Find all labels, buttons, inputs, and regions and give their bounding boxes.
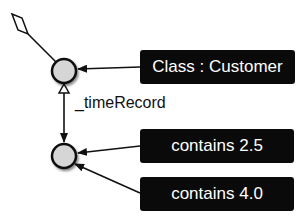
record-node[interactable]: [52, 144, 76, 168]
contains-2-5-box[interactable]: contains 2.5: [140, 129, 294, 163]
time-record-label: _timeRecord: [75, 94, 166, 112]
aggregation-edge: [28, 34, 56, 62]
contains-4-0-box[interactable]: contains 4.0: [140, 177, 294, 211]
contains-2-5-edge: [78, 146, 140, 153]
contains-4-0-edge: [75, 164, 140, 193]
class-customer-box[interactable]: Class : Customer: [140, 50, 295, 84]
aggregation-diamond-icon: [12, 14, 28, 34]
customer-edge: [78, 67, 140, 69]
inheritance-triangle-icon: [59, 84, 69, 93]
time-node[interactable]: [52, 59, 76, 83]
